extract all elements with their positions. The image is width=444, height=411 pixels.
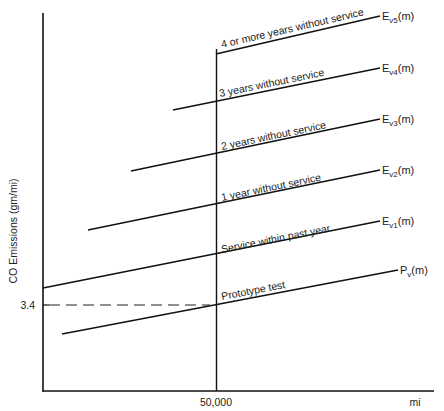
x-axis-label: mi (409, 396, 420, 408)
series-end-label: Ev4(m) (382, 62, 414, 77)
series-end-label: Ev2(m) (382, 164, 414, 179)
series-end-label: Ev5(m) (382, 10, 414, 25)
chart-svg: 3.4 50,000 mi CO Emissions (gm/mi) Proto… (0, 0, 444, 411)
series-label: Service within past year (220, 222, 332, 255)
co-emissions-chart: 3.4 50,000 mi CO Emissions (gm/mi) Proto… (0, 0, 444, 411)
series-line (62, 270, 398, 334)
x-tick-label: 50,000 (200, 396, 232, 408)
series-end-label: Pv(m) (400, 264, 428, 279)
y-tick-label: 3.4 (20, 299, 35, 311)
series-4: 3 years without serviceEv4(m) (173, 62, 414, 110)
series-2: 1 year without serviceEv2(m) (88, 164, 414, 230)
series-end-label: Ev3(m) (382, 113, 414, 128)
series-layer: Prototype testPv(m)Service within past y… (43, 5, 428, 334)
series-3: 2 years without serviceEv3(m) (131, 113, 414, 171)
series-0: Prototype testPv(m) (62, 264, 428, 334)
series-label: 2 years without service (220, 118, 327, 152)
series-label: 4 or more years without service (220, 5, 365, 50)
y-axis-label: CO Emissions (gm/mi) (7, 178, 19, 283)
series-end-label: Ev1(m) (382, 215, 414, 230)
series-label: 1 year without service (220, 171, 322, 203)
series-5: 4 or more years without serviceEv5(m) (216, 5, 414, 54)
